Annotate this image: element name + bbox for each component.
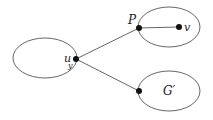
- edge-P-v: [139, 27, 179, 28]
- label-P: P: [127, 13, 137, 27]
- node-v: [176, 24, 182, 30]
- label-v: v: [184, 21, 191, 34]
- node-u: [73, 56, 79, 62]
- edge-u-G-prime: [76, 59, 139, 91]
- node-G-prime-attach: [136, 88, 142, 94]
- graph-diagram: u y P v G′: [0, 0, 213, 120]
- label-G-prime: G′: [163, 84, 176, 98]
- label-u-sub: y: [67, 61, 73, 70]
- node-P: [136, 25, 142, 31]
- edge-u-P: [76, 28, 139, 59]
